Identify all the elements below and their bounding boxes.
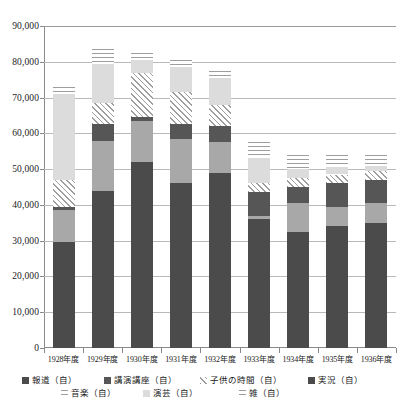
bar-segment [326, 183, 348, 206]
x-axis-tick-label: 1932年度 [204, 353, 235, 364]
bar-segment [365, 166, 387, 171]
bar-column [209, 26, 231, 348]
bar-segment [92, 64, 114, 103]
bar-segment [131, 73, 153, 118]
y-axis-tick-label: 90,000 [12, 21, 39, 31]
legend-row-2: 音楽（自）演芸（自）雑（自） [0, 387, 408, 400]
bar-segment [326, 226, 348, 348]
bar-segment [209, 105, 231, 126]
y-axis-tick-label: 80,000 [12, 57, 39, 67]
y-axis-tick-label: 50,000 [12, 164, 39, 174]
x-tick-mark [240, 348, 241, 353]
y-axis-tick-label: 0 [34, 343, 39, 353]
bar-segment [170, 92, 192, 124]
bar-segment [170, 139, 192, 184]
bar-segment [170, 67, 192, 92]
bar-column [53, 26, 75, 348]
bar-column [170, 26, 192, 348]
bar-segment [287, 187, 309, 203]
bar-segment [92, 49, 114, 63]
y-axis-tick-label: 10,000 [12, 307, 39, 317]
bar-segment [170, 60, 192, 67]
bar-segment [248, 158, 270, 183]
bar-column [326, 26, 348, 348]
x-axis-tick-label: 1930年度 [126, 353, 157, 364]
x-tick-mark [318, 348, 319, 353]
bar-segment [92, 103, 114, 124]
bar-segment [131, 121, 153, 162]
legend-label: 報道（自） [32, 375, 77, 386]
x-tick-mark [161, 348, 162, 353]
x-tick-mark [357, 348, 358, 353]
x-axis-tick-label: 1928年度 [48, 353, 79, 364]
legend-label: 実況（自） [318, 375, 363, 386]
bar-segment [287, 232, 309, 348]
bar-segment [53, 207, 75, 211]
bar-segment [131, 60, 153, 73]
bar-segment [248, 216, 270, 220]
stacked-bar-chart: 90,00080,00070,00060,00050,00040,00030,0… [0, 0, 408, 407]
bar-segment [287, 203, 309, 232]
legend-item[interactable]: 報道（自） [22, 374, 104, 387]
legend-label: 雑（自） [249, 388, 285, 399]
x-tick-mark [396, 348, 397, 353]
x-tick-mark [200, 348, 201, 353]
bar-column [365, 26, 387, 348]
bar-segment [92, 191, 114, 348]
legend-swatch-icon [22, 377, 29, 384]
y-axis-tick-label: 20,000 [12, 271, 39, 281]
bar-segment [365, 180, 387, 203]
bar-segment [287, 178, 309, 187]
bar-segment [326, 175, 348, 184]
legend-row-1: 報道（自）講演講座（自）子供の時間（自）実況（自） [0, 374, 408, 387]
bar-segment [131, 162, 153, 348]
bar-segment [365, 203, 387, 223]
x-axis-tick-label: 1936年度 [361, 353, 392, 364]
bar-column [131, 26, 153, 348]
bar-column [287, 26, 309, 348]
y-axis-tick-label: 70,000 [12, 93, 39, 103]
legend-label: 講演講座（自） [114, 375, 177, 386]
legend-label: 音楽（自） [71, 388, 116, 399]
bar-segment [209, 71, 231, 78]
bar-segment [287, 169, 309, 178]
bar-segment [248, 142, 270, 158]
bar-segment [209, 78, 231, 105]
bar-column [248, 26, 270, 348]
bar-segment [53, 242, 75, 348]
bar-segment [365, 155, 387, 166]
bar-segment [209, 126, 231, 142]
bar-segment [365, 223, 387, 348]
bar-segment [53, 210, 75, 242]
x-tick-mark [83, 348, 84, 353]
bar-segment [287, 155, 309, 169]
legend-swatch-icon [104, 377, 111, 384]
x-axis-tick-label: 1929年度 [87, 353, 118, 364]
bar-segment [248, 192, 270, 215]
legend-swatch-icon [239, 390, 246, 397]
bar-column [92, 26, 114, 348]
legend-swatch-icon [200, 377, 207, 384]
bar-segment [92, 124, 114, 140]
x-tick-mark [279, 348, 280, 353]
y-axis-tick-label: 30,000 [12, 236, 39, 246]
bar-segment [209, 173, 231, 348]
x-axis-tick-label: 1931年度 [165, 353, 196, 364]
bar-segment [131, 53, 153, 60]
x-axis-tick-label: 1933年度 [243, 353, 274, 364]
bar-segment [326, 155, 348, 168]
legend-item[interactable]: 実況（自） [308, 374, 386, 387]
bar-segment [53, 180, 75, 207]
legend-item[interactable]: 講演講座（自） [104, 374, 200, 387]
legend-item[interactable]: 雑（自） [239, 387, 347, 400]
bar-segment [170, 124, 192, 138]
legend-item[interactable]: 演芸（自） [143, 387, 239, 400]
y-axis-tick-label: 40,000 [12, 200, 39, 210]
bar-segment [326, 207, 348, 227]
bar-segment [92, 141, 114, 191]
x-tick-mark [122, 348, 123, 353]
bar-segment [53, 87, 75, 94]
legend-swatch-icon [143, 390, 150, 397]
legend-item[interactable]: 子供の時間（自） [200, 374, 308, 387]
legend-item[interactable]: 音楽（自） [61, 387, 143, 400]
